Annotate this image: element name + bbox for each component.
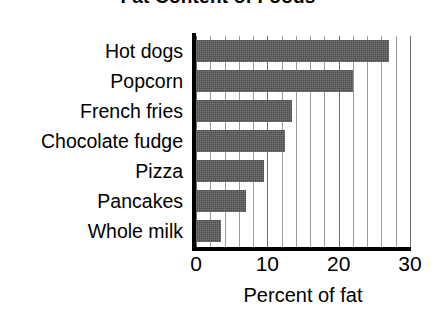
bar-row [196,126,410,156]
category-label: Chocolate fudge [41,126,183,156]
bar [196,70,353,92]
x-tick-label: 10 [256,252,279,276]
category-label: French fries [80,96,183,126]
bar-row [196,66,410,96]
bar [196,220,221,242]
bar [196,100,292,122]
bar-row [196,186,410,216]
category-label: Popcorn [110,66,183,96]
fat-content-bar-chart: Fat Content of Foods Hot dogsPopcornFren… [0,0,436,319]
chart-title: Fat Content of Foods [0,0,436,8]
x-axis-line [192,247,411,251]
bar [196,190,246,212]
bar-row [196,96,410,126]
bar [196,40,389,62]
category-axis-labels: Hot dogsPopcornFrench friesChocolate fud… [0,36,189,247]
y-axis-line [192,33,196,250]
category-label: Hot dogs [105,36,183,66]
bar-row [196,36,410,66]
bar [196,160,264,182]
plot-area [196,36,410,247]
x-tick-label: 0 [190,252,202,276]
x-axis-title: Percent of fat [196,284,410,307]
bar [196,130,285,152]
category-label: Whole milk [88,216,183,246]
category-label: Pizza [135,156,183,186]
x-tick-label: 20 [327,252,350,276]
bar-row [196,216,410,246]
x-axis-tick-labels: 0102030 [0,252,436,280]
gridline [410,36,411,247]
x-tick-label: 30 [398,252,421,276]
category-label: Pancakes [97,186,183,216]
bar-row [196,156,410,186]
